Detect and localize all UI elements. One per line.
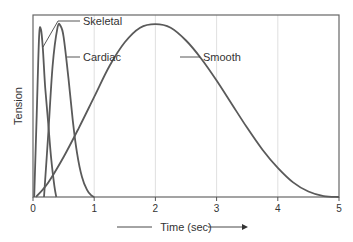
x-axis-label-group: Time (sec) [117,221,248,233]
x-axis-label: Time (sec) [160,221,212,233]
x-tick-label: 4 [275,203,281,214]
x-tick-label: 1 [91,203,97,214]
tension-time-chart: 012345 SkeletalCardiacSmooth Tension Tim… [0,0,353,242]
cardiac-label: Cardiac [83,51,121,63]
vertical-gridlines [94,15,278,197]
x-tick-label: 2 [153,203,159,214]
x-tick-label: 0 [30,203,36,214]
x-tick-label: 5 [336,203,342,214]
arrow-right-icon [242,224,248,230]
series-curves [34,24,339,197]
x-tick-label: 3 [214,203,220,214]
plot-frame [33,15,339,197]
smooth-curve [36,24,339,197]
y-axis-label: Tension [12,87,24,125]
series-labels: SkeletalCardiacSmooth [43,15,241,63]
leader-line [43,21,80,47]
skeletal-label: Skeletal [83,15,122,27]
x-axis-ticks: 012345 [30,197,342,214]
smooth-label: Smooth [203,51,241,63]
